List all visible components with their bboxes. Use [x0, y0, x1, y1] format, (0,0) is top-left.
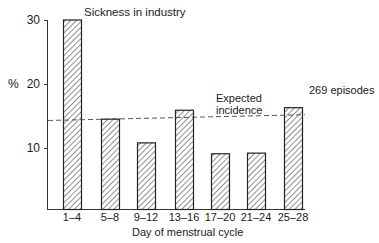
x-tick-label: 1–4 — [52, 211, 92, 223]
chart-canvas — [0, 0, 379, 243]
bar-25–28 — [285, 108, 303, 210]
bar-17–20 — [212, 154, 230, 210]
x-axis-label: Day of menstrual cycle — [132, 226, 243, 238]
y-axis-label: % — [8, 78, 19, 90]
bar-9–12 — [138, 143, 156, 210]
x-tick-label: 9–12 — [126, 211, 166, 223]
bar-chart: 30 20 10 % Sickness in industry Expected… — [0, 0, 379, 243]
bar-13–16 — [176, 110, 194, 209]
x-tick-label: 17–20 — [200, 211, 240, 223]
x-tick-label: 13–16 — [164, 211, 204, 223]
chart-title: Sickness in industry — [84, 6, 186, 18]
y-tick-label-30: 30 — [18, 14, 40, 26]
expected-incidence-label-1: Expected — [216, 92, 262, 104]
bar-21–24 — [248, 153, 266, 209]
bar-1–4 — [64, 20, 82, 210]
episodes-annotation: 269 episodes — [309, 84, 374, 96]
bars-group — [64, 20, 303, 210]
y-tick-label-10: 10 — [18, 142, 40, 154]
x-tick-label: 25–28 — [273, 211, 313, 223]
x-tick-label: 21–24 — [236, 211, 276, 223]
expected-incidence-label-2: incidence — [216, 104, 262, 116]
bar-5–8 — [102, 119, 120, 209]
y-tick-label-20: 20 — [18, 78, 40, 90]
x-tick-label: 5–8 — [90, 211, 130, 223]
